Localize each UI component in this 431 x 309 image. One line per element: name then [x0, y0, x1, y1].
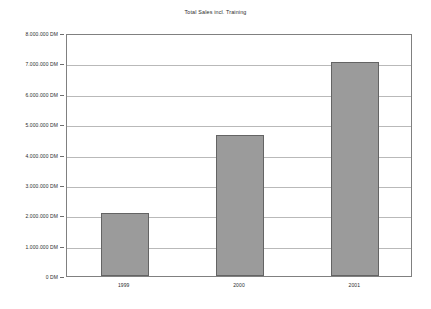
y-tick-label: 6.000.000 DM: [25, 92, 58, 98]
y-tick-mark: [60, 34, 64, 35]
x-tick-label: 2000: [233, 282, 245, 288]
y-tick-label: 1.000.000 DM: [25, 244, 58, 250]
plot-area: [66, 34, 412, 277]
y-tick-mark: [60, 95, 64, 96]
y-tick-label: 7.000.000 DM: [25, 61, 58, 67]
y-tick-mark: [60, 277, 64, 278]
bar-chart: Total Sales incl. Training 0 DM1.000.000…: [0, 0, 431, 309]
y-tick-label: 2.000.000 DM: [25, 213, 58, 219]
y-tick-mark: [60, 247, 64, 248]
y-tick-mark: [60, 186, 64, 187]
y-tick-mark: [60, 64, 64, 65]
x-axis: 199920002001: [66, 282, 412, 294]
x-tick-label: 2001: [349, 282, 361, 288]
y-tick-mark: [60, 156, 64, 157]
bar-1999[interactable]: [101, 213, 149, 276]
y-tick-label: 8.000.000 DM: [25, 31, 58, 37]
y-tick-label: 3.000.000 DM: [25, 183, 58, 189]
bar-2000[interactable]: [216, 135, 264, 276]
y-tick-label: 0 DM: [46, 274, 58, 280]
bar-2001[interactable]: [331, 62, 379, 276]
y-axis: 0 DM1.000.000 DM2.000.000 DM3.000.000 DM…: [0, 34, 64, 277]
y-tick-mark: [60, 125, 64, 126]
x-tick-label: 1999: [118, 282, 130, 288]
y-tick-mark: [60, 216, 64, 217]
y-tick-label: 5.000.000 DM: [25, 122, 58, 128]
chart-title: Total Sales incl. Training: [0, 9, 431, 15]
bars-layer: [67, 35, 411, 276]
y-tick-label: 4.000.000 DM: [25, 153, 58, 159]
